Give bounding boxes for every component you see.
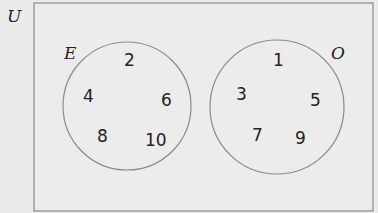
set-o-element: 3 xyxy=(236,84,247,104)
set-o-element: 1 xyxy=(273,50,284,70)
set-o-element: 9 xyxy=(295,128,306,148)
set-o-element: 7 xyxy=(252,125,263,145)
set-e-label: E xyxy=(63,43,77,63)
set-e-element: 2 xyxy=(124,50,135,70)
venn-diagram: U E 2 4 6 8 10 O 1 3 5 7 9 xyxy=(0,0,378,213)
set-e-element: 4 xyxy=(83,86,94,106)
set-e-element: 8 xyxy=(97,126,108,146)
set-o-element: 5 xyxy=(310,90,321,110)
universe-label: U xyxy=(7,6,22,26)
universe-rectangle xyxy=(34,3,373,211)
set-e-element: 6 xyxy=(161,90,172,110)
set-o-label: O xyxy=(331,43,345,63)
set-e-element: 10 xyxy=(145,130,167,150)
